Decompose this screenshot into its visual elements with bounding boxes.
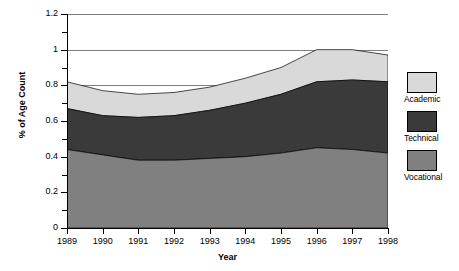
- area-vocational: [67, 148, 388, 228]
- y-tick-major: [61, 14, 67, 15]
- y-tick-major: [61, 157, 67, 158]
- x-tick: [352, 229, 353, 234]
- x-tick-label: 1998: [367, 236, 409, 246]
- legend-label: Academic: [404, 94, 459, 104]
- chart-screenshot: 00.20.40.60.811.2 1989199019911992199319…: [0, 0, 459, 271]
- y-axis-title: % of Age Count: [17, 45, 27, 165]
- y-tick-minor: [62, 32, 67, 33]
- y-tick-minor: [62, 175, 67, 176]
- legend-entry: Academic: [404, 72, 459, 104]
- legend-swatch-technical: [407, 111, 437, 132]
- y-tick-major: [61, 121, 67, 122]
- y-tick-label: 1.2: [16, 8, 58, 18]
- y-tick-minor: [62, 210, 67, 211]
- x-tick: [174, 229, 175, 234]
- legend-swatch-academic: [407, 72, 437, 93]
- y-tick-minor: [62, 103, 67, 104]
- x-tick: [388, 229, 389, 234]
- legend: AcademicTechnicalVocational: [404, 72, 459, 189]
- y-axis-line: [67, 14, 68, 229]
- x-tick: [103, 229, 104, 234]
- area-canvas: [67, 14, 388, 228]
- legend-label: Technical: [404, 133, 459, 143]
- x-tick: [210, 229, 211, 234]
- y-tick-label: 0: [16, 222, 58, 232]
- y-tick-major: [61, 50, 67, 51]
- x-tick: [138, 229, 139, 234]
- x-tick: [245, 229, 246, 234]
- x-tick: [317, 229, 318, 234]
- stacked-area-series: [67, 14, 388, 228]
- plot-area: [67, 14, 388, 228]
- y-tick-label: 0.2: [16, 186, 58, 196]
- y-tick-major: [61, 192, 67, 193]
- x-axis-line: [67, 228, 389, 229]
- legend-label: Vocational: [404, 172, 459, 182]
- y-tick-minor: [62, 68, 67, 69]
- legend-entry: Technical: [404, 111, 459, 143]
- x-tick: [67, 229, 68, 234]
- x-axis-title: Year: [67, 252, 388, 262]
- y-tick-minor: [62, 139, 67, 140]
- legend-entry: Vocational: [404, 150, 459, 182]
- x-tick: [281, 229, 282, 234]
- y-tick-major: [61, 85, 67, 86]
- legend-swatch-vocational: [407, 150, 437, 171]
